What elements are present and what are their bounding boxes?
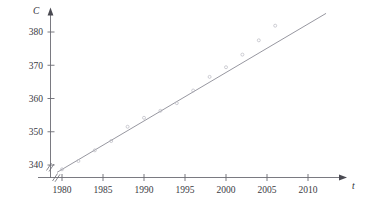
data-points-group	[61, 24, 277, 171]
data-point	[257, 39, 260, 42]
y-tick-label: 340	[29, 160, 44, 170]
y-tick-label: 360	[29, 94, 44, 104]
x-tick-label: 1985	[94, 185, 113, 195]
data-point	[274, 24, 277, 27]
y-tick-marks-group	[48, 32, 55, 165]
y-axis-arrow-icon	[48, 8, 54, 16]
data-point	[208, 75, 211, 78]
data-point	[175, 102, 178, 105]
y-axis-title: C	[33, 6, 40, 16]
x-axis-group	[38, 174, 347, 182]
x-tick-label: 1995	[176, 185, 195, 195]
data-point	[126, 125, 129, 128]
data-point	[143, 116, 146, 119]
x-tick-labels-group: 1980198519901995200020052010	[53, 185, 318, 195]
x-tick-label: 1980	[53, 185, 72, 195]
x-axis-title: t	[352, 181, 355, 191]
x-tick-label: 2000	[217, 185, 236, 195]
y-tick-label: 370	[29, 61, 44, 71]
data-point	[241, 53, 244, 56]
y-tick-label: 380	[29, 27, 44, 37]
data-point	[225, 66, 228, 69]
x-axis-arrow-icon	[339, 175, 347, 181]
x-tick-label: 2010	[299, 185, 318, 195]
y-tick-labels-group: 340350360370380	[29, 27, 44, 170]
y-tick-label: 350	[29, 127, 44, 137]
co2-scatter-plot: 340350360370380 198019851990199520002005…	[0, 0, 365, 205]
chart-container: 340350360370380 198019851990199520002005…	[0, 0, 365, 205]
y-axis-group	[47, 8, 55, 179]
x-tick-label: 2005	[258, 185, 277, 195]
regression-fit-line	[57, 13, 326, 172]
x-tick-label: 1990	[135, 185, 154, 195]
